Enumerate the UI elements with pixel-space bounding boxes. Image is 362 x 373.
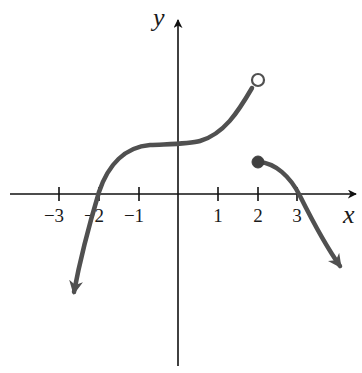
open-circle-endpoint bbox=[252, 74, 264, 86]
tick-label-neg3: −3 bbox=[44, 205, 64, 226]
left-branch-curve bbox=[74, 88, 252, 292]
function-graph: −3 −2 −1 1 2 3 x y bbox=[0, 0, 362, 373]
tick-label-neg1: −1 bbox=[124, 205, 144, 226]
x-axis-label: x bbox=[342, 200, 355, 229]
tick-label-3: 3 bbox=[292, 205, 302, 226]
y-axis-label: y bbox=[150, 3, 165, 32]
closed-dot-endpoint bbox=[252, 156, 264, 168]
tick-label-1: 1 bbox=[213, 205, 223, 226]
tick-label-2: 2 bbox=[253, 205, 263, 226]
